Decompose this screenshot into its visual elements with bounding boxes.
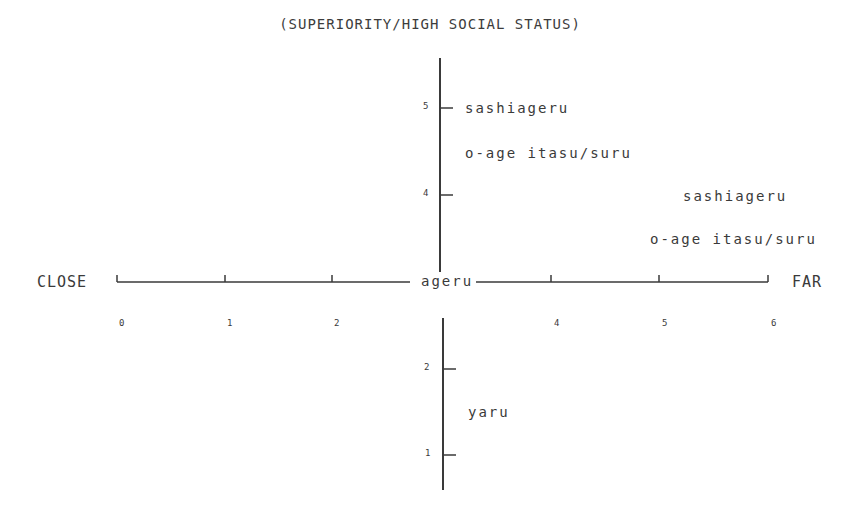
v-tick-label-5: 5 [423,101,428,111]
right-oage-label: o-age itasu/suru [650,231,817,247]
h-tick-label-0: 0 [119,318,124,328]
ageru-label: ageru [421,273,473,289]
diagram-title: (SUPERIORITY/HIGH SOCIAL STATUS) [0,16,860,32]
yaru-label: yaru [468,404,510,420]
h-tick-label-5: 5 [662,318,667,328]
v-tick-label-4: 4 [423,188,428,198]
right-sashiageru-label: sashiageru [683,188,787,204]
h-tick-label-4: 4 [554,318,559,328]
h-tick-label-2: 2 [334,318,339,328]
v-tick-label-2: 2 [424,362,429,372]
upper-sashiageru-label: sashiageru [465,100,569,116]
v-tick-label-1: 1 [425,448,430,458]
far-label: FAR [792,273,822,291]
close-label: CLOSE [37,273,87,291]
h-tick-label-6: 6 [771,318,776,328]
axes-drawing [0,0,860,514]
h-tick-label-1: 1 [227,318,232,328]
upper-oage-label: o-age itasu/suru [465,145,632,161]
